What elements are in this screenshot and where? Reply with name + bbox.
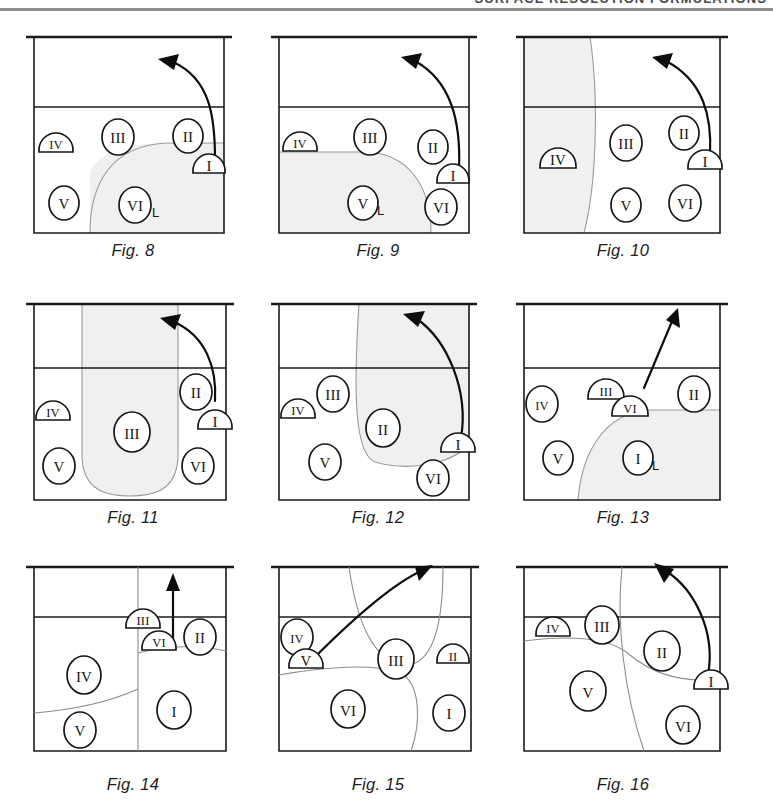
marker-label: V bbox=[319, 455, 330, 471]
marker-label: I bbox=[171, 704, 176, 720]
figure-panel: III VI IV II V I L Fig. 13 bbox=[498, 286, 748, 551]
figure-panel: IV III II I V L VI Fig. 9 bbox=[253, 19, 503, 284]
figure-caption: Fig. 10 bbox=[498, 241, 748, 260]
marker-label: I bbox=[702, 154, 707, 170]
flow-arrow-head bbox=[666, 308, 680, 328]
marker-label: V bbox=[300, 653, 311, 669]
marker-subscript: L bbox=[377, 203, 384, 218]
figure-panel: IV III II I V VI Fig. 16 bbox=[498, 553, 748, 807]
figure-panel: IV V III II VI I Fig. 15 bbox=[253, 553, 503, 807]
marker-label: IV bbox=[49, 138, 63, 152]
marker-label: II bbox=[428, 140, 438, 156]
marker-label: VI bbox=[152, 636, 166, 650]
figure-diagram-fig-11: IV III II I V VI bbox=[8, 286, 258, 516]
figure-diagram-fig-13: III VI IV II V I L bbox=[498, 286, 748, 516]
marker-label: III bbox=[618, 136, 634, 152]
marker-label: VI bbox=[127, 198, 143, 214]
figure-grid: IV III II I V VI L Fig. 8 bbox=[0, 11, 773, 807]
figure-diagram-fig-16: IV III II I V VI bbox=[498, 553, 748, 783]
marker-label: III bbox=[325, 387, 341, 403]
marker-label: V bbox=[58, 196, 69, 212]
marker-label: II bbox=[378, 422, 388, 438]
marker-label: III bbox=[110, 130, 126, 146]
flow-arrow-head bbox=[652, 53, 673, 69]
marker-label: VI bbox=[190, 459, 206, 475]
marker-label: IV bbox=[546, 622, 560, 636]
marker-label: VI bbox=[675, 719, 691, 735]
marker-label: IV bbox=[293, 137, 307, 151]
figure-diagram-fig-15: IV V III II VI I bbox=[253, 553, 503, 783]
flow-arrow-head bbox=[401, 53, 422, 69]
marker-group: III VI II IV I V bbox=[64, 609, 216, 748]
marker-label: IV bbox=[550, 152, 566, 168]
marker-label: V bbox=[582, 685, 593, 701]
marker-label: V bbox=[53, 459, 64, 475]
figure-panel: III VI II IV I V Fig. 14 bbox=[8, 553, 258, 807]
marker-label: I bbox=[635, 451, 640, 467]
flow-arrow-head bbox=[158, 54, 179, 70]
marker-label: V bbox=[74, 723, 85, 739]
marker-label: I bbox=[212, 414, 217, 430]
marker-label: III bbox=[124, 426, 140, 442]
marker-label: I bbox=[206, 158, 211, 174]
marker-label: V bbox=[357, 196, 368, 212]
flow-arrow-head bbox=[166, 573, 180, 591]
figure-caption: Fig. 8 bbox=[8, 241, 258, 260]
flow-arrow-shaft bbox=[644, 319, 673, 388]
figure-caption: Fig. 16 bbox=[498, 775, 748, 794]
marker-label: II bbox=[195, 630, 205, 646]
marker-label: VI bbox=[677, 196, 693, 212]
marker-subscript: L bbox=[652, 458, 659, 473]
marker-label: II bbox=[679, 126, 689, 142]
marker-label: III bbox=[136, 614, 149, 628]
figure-diagram-fig-12: III IV II I V VI bbox=[253, 286, 503, 516]
figure-panel: IV III II I V VI L Fig. 8 bbox=[8, 19, 258, 284]
running-header-text: SURFACE RESOLUTION FORMULATIONS bbox=[475, 0, 767, 6]
marker-label: II bbox=[183, 129, 193, 145]
marker-label: IV bbox=[290, 632, 304, 646]
marker-label: VI bbox=[340, 703, 356, 719]
figure-diagram-fig-10: IV III II I V VI bbox=[498, 19, 748, 249]
shaded-region bbox=[524, 37, 595, 233]
figure-panel: IV III II I V VI Fig. 10 bbox=[498, 19, 748, 284]
marker-label: II bbox=[657, 645, 667, 661]
marker-label: II bbox=[449, 650, 458, 664]
marker-label: IV bbox=[291, 404, 305, 418]
marker-label: VI bbox=[425, 471, 441, 487]
marker-label: VI bbox=[433, 200, 449, 216]
marker-label: IV bbox=[535, 399, 549, 413]
marker-label: III bbox=[599, 385, 612, 399]
marker-group: IV III II I V VI bbox=[536, 606, 728, 744]
figure-diagram-fig-9: IV III II I V L VI bbox=[253, 19, 503, 249]
marker-group: IV V III II VI I bbox=[281, 619, 469, 731]
figure-diagram-fig-14: III VI II IV I V bbox=[8, 553, 258, 783]
marker-label: IV bbox=[76, 669, 92, 685]
marker-label: I bbox=[450, 168, 455, 184]
marker-subscript: L bbox=[152, 205, 159, 220]
figure-caption: Fig. 15 bbox=[253, 775, 503, 794]
figure-caption: Fig. 13 bbox=[498, 508, 748, 527]
flow-arrow-head bbox=[415, 565, 433, 581]
figure-diagram-fig-8: IV III II I V VI L bbox=[8, 19, 258, 249]
region-divider-vertical bbox=[620, 567, 644, 751]
marker-label: III bbox=[594, 619, 610, 635]
figure-page: SURFACE RESOLUTION FORMULATIONS IV III bbox=[0, 0, 773, 807]
figure-caption: Fig. 11 bbox=[8, 508, 258, 527]
panel-frame bbox=[34, 567, 226, 751]
marker-label: I bbox=[446, 706, 451, 722]
marker-label: IV bbox=[46, 406, 60, 420]
marker-label: V bbox=[620, 198, 631, 214]
marker-label: VI bbox=[623, 402, 637, 416]
marker-label: I bbox=[708, 674, 713, 690]
shaded-region bbox=[82, 304, 178, 496]
marker-label: III bbox=[388, 653, 404, 669]
figure-caption: Fig. 14 bbox=[8, 775, 258, 794]
marker-label: III bbox=[362, 130, 378, 146]
figure-caption: Fig. 12 bbox=[253, 508, 503, 527]
marker-label: II bbox=[689, 387, 699, 403]
marker-label: II bbox=[191, 385, 201, 401]
running-header: SURFACE RESOLUTION FORMULATIONS bbox=[0, 0, 773, 11]
figure-caption: Fig. 9 bbox=[253, 241, 503, 260]
figure-panel: III IV II I V VI Fig. 12 bbox=[253, 286, 503, 551]
figure-panel: IV III II I V VI Fig. 11 bbox=[8, 286, 258, 551]
